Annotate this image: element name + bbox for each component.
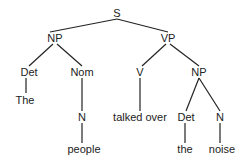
word-noise: noise (209, 144, 235, 155)
word-people: people (67, 144, 100, 155)
tree-edges (0, 0, 249, 166)
node-n-object: N (216, 112, 224, 123)
word-talked-over: talked over (113, 112, 167, 123)
word-the-capital: The (16, 95, 35, 106)
node-nom: Nom (70, 67, 93, 78)
node-n: N (78, 112, 86, 123)
node-v: V (136, 67, 143, 78)
node-det-object: Det (177, 112, 194, 123)
node-s: S (113, 8, 120, 19)
node-vp: VP (161, 33, 176, 44)
node-det: Det (20, 67, 37, 78)
node-np-object: NP (191, 67, 206, 78)
word-the: the (177, 144, 192, 155)
node-np: NP (47, 33, 62, 44)
